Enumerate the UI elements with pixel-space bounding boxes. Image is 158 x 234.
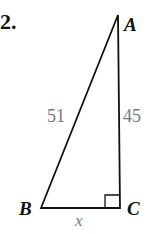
vertex-label-b: B (18, 198, 32, 219)
side-label-bc: x (74, 211, 83, 230)
problem-number: 2. (0, 9, 17, 34)
side-label-ab: 51 (47, 106, 65, 126)
triangle-diagram: 2. A B C 51 45 x (0, 0, 158, 234)
right-angle-marker (105, 195, 120, 208)
vertex-label-c: C (127, 198, 140, 219)
side-label-ac: 45 (123, 106, 141, 126)
vertex-label-a: A (123, 14, 137, 35)
